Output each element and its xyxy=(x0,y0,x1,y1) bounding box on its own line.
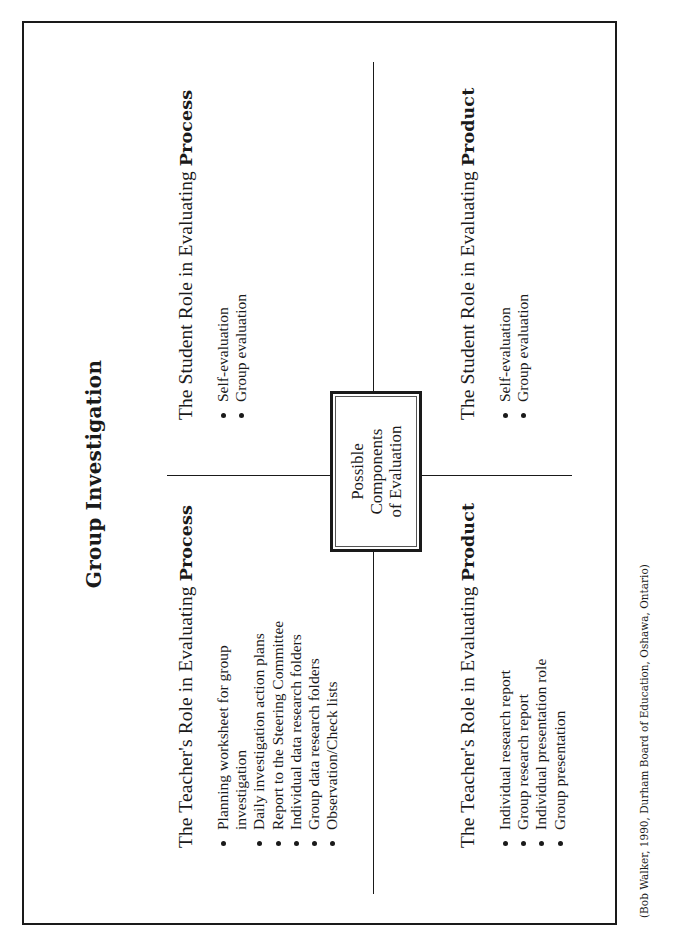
list-item-continuation: investigation xyxy=(232,488,250,848)
center-box-line: of Evaluation xyxy=(386,425,405,517)
list-item: Observation/Check lists xyxy=(323,488,341,848)
quadrant-student-process: The Student Role in Evaluating Process S… xyxy=(175,40,250,420)
list-item: Group presentation xyxy=(551,488,569,848)
heading-emphasis: Product xyxy=(458,88,478,166)
quadrant-heading: The Teacher's Role in Evaluating Process xyxy=(175,488,197,848)
center-box-line: Possible xyxy=(348,443,367,500)
quadrant-teacher-process: The Teacher's Role in Evaluating Process… xyxy=(175,488,341,848)
list-item: Individual data research folders xyxy=(287,488,305,848)
list-item: Self-evaluation xyxy=(214,40,232,420)
heading-emphasis: Process xyxy=(176,505,196,581)
rotated-page: Group Investigation Possible Components … xyxy=(0,0,673,948)
heading-text: The Student Role in Evaluating xyxy=(457,166,478,420)
list-item: Individual research report xyxy=(496,488,514,848)
heading-text: The Teacher's Role in Evaluating xyxy=(175,581,196,848)
list-item: Daily investigation action plans xyxy=(250,488,268,848)
list-item: Planning worksheet for group xyxy=(214,488,232,848)
list-item: Group evaluation xyxy=(514,40,532,420)
bullet-list: Self-evaluation Group evaluation xyxy=(496,40,532,420)
list-item: Group evaluation xyxy=(232,40,250,420)
list-item: Individual presentation role xyxy=(532,488,550,848)
center-box-line: Components xyxy=(367,429,386,515)
page-title: Group Investigation xyxy=(82,0,106,948)
list-item: Group research report xyxy=(514,488,532,848)
center-box-inner: Possible Components of Evaluation xyxy=(335,396,417,547)
quadrant-heading: The Teacher's Role in Evaluating Product xyxy=(457,488,479,848)
list-item: Group data research folders xyxy=(305,488,323,848)
quadrant-teacher-product: The Teacher's Role in Evaluating Product… xyxy=(457,488,569,848)
list-item: Report to the Steering Committee xyxy=(269,488,287,848)
heading-text: The Student Role in Evaluating xyxy=(175,166,196,420)
bullet-list: Individual research report Group researc… xyxy=(496,488,569,848)
heading-emphasis: Product xyxy=(458,503,478,581)
list-item: Self-evaluation xyxy=(496,40,514,420)
quadrant-heading: The Student Role in Evaluating Process xyxy=(175,40,197,420)
citation: (Bob Walker, 1990, Durham Board of Educa… xyxy=(638,564,650,918)
center-box: Possible Components of Evaluation xyxy=(330,391,422,552)
heading-text: The Teacher's Role in Evaluating xyxy=(457,581,478,848)
quadrant-heading: The Student Role in Evaluating Product xyxy=(457,40,479,420)
quadrant-student-product: The Student Role in Evaluating Product S… xyxy=(457,40,532,420)
bullet-list: Planning worksheet for group investigati… xyxy=(214,488,341,848)
bullet-list: Self-evaluation Group evaluation xyxy=(214,40,250,420)
heading-emphasis: Process xyxy=(176,90,196,166)
